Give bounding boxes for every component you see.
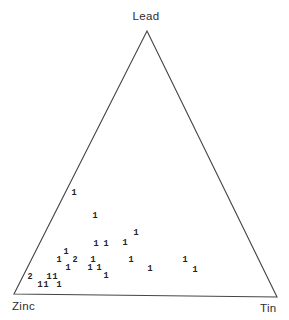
data-point-count: 1 (103, 240, 108, 249)
data-point-count: 1 (128, 256, 133, 265)
data-point-count: 2 (27, 273, 32, 282)
data-point-count: 1 (133, 229, 138, 238)
data-point-count: 1 (63, 248, 68, 257)
ternary-diagram-figure: Lead Zinc Tin 111111112111111111211111 (0, 0, 289, 320)
data-point-count: 1 (92, 212, 97, 221)
data-point-count: 1 (182, 256, 187, 265)
data-point-count: 1 (87, 264, 92, 273)
data-point-count: 1 (43, 281, 48, 290)
data-point-count: 1 (56, 281, 61, 290)
data-point-count: 1 (122, 239, 127, 248)
data-point-count: 1 (147, 265, 152, 274)
data-point-count: 1 (192, 266, 197, 275)
data-point-count: 1 (71, 189, 76, 198)
data-point-count: 1 (37, 281, 42, 290)
data-point-count: 2 (72, 256, 77, 265)
data-point-count: 1 (96, 264, 101, 273)
data-point-count: 1 (103, 272, 108, 281)
data-point-count: 1 (56, 256, 61, 265)
data-points-layer: 111111112111111111211111 (0, 0, 289, 320)
data-point-count: 1 (65, 264, 70, 273)
data-point-count: 1 (93, 240, 98, 249)
